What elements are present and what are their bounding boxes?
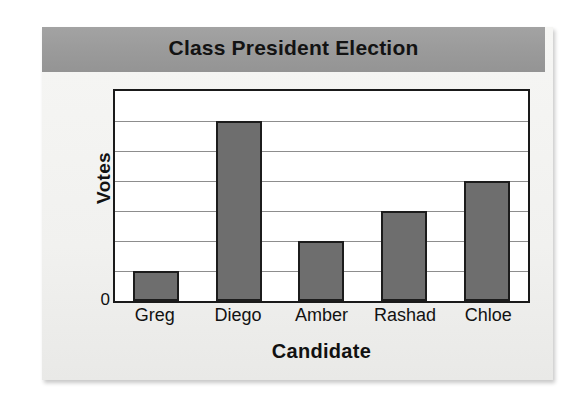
title-banner: Class President Election [42,27,545,72]
chart-title: Class President Election [42,36,545,60]
chart-region: Votes 0 GregDiegoAmberRashadChloe Candid… [42,72,553,380]
bar-slot [115,91,198,301]
x-tick-label-greg: Greg [113,305,196,326]
x-axis-label: Candidate [113,340,530,363]
y-axis-label: Votes [93,128,115,228]
x-axis-tick-labels: GregDiegoAmberRashadChloe [113,305,530,326]
x-tick-label-diego: Diego [196,305,279,326]
bar-diego[interactable] [216,121,262,301]
x-tick-label-rashad: Rashad [363,305,446,326]
bar-slot [445,91,528,301]
bar-chloe[interactable] [464,181,510,301]
y-axis-tick-zero: 0 [94,290,110,310]
figure-card: Class President Election Votes 0 GregDie… [42,27,553,380]
bar-slot [280,91,363,301]
x-tick-label-amber: Amber [280,305,363,326]
bar-amber[interactable] [298,241,344,301]
x-tick-label-chloe: Chloe [447,305,530,326]
plot-area [113,89,530,303]
bar-greg[interactable] [133,271,179,301]
bar-slot [363,91,446,301]
bar-slot [198,91,281,301]
bars-layer [115,91,528,301]
bar-rashad[interactable] [381,211,427,301]
